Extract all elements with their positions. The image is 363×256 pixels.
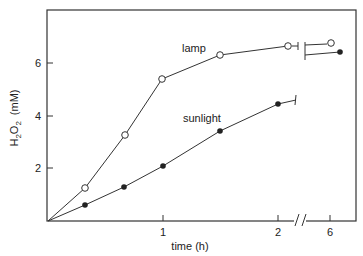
x-tick-2: 2 <box>275 226 281 238</box>
svg-text:H2O2(mM): H2O2(mM) <box>8 89 23 146</box>
y-tick-6: 6 <box>35 57 41 69</box>
series-label-lamp: lamp <box>182 42 206 54</box>
chart: 6 4 2 H2O2(mM) 1 2 6 time (h) <box>0 0 363 256</box>
y-tick-4: 4 <box>35 110 41 122</box>
series-label-sunlight: sunlight <box>183 112 221 124</box>
x-axis-title: time (h) <box>171 240 208 252</box>
x-axis: 1 2 6 time (h) <box>160 214 333 252</box>
x-tick-1: 1 <box>160 226 166 238</box>
series-sunlight: sunlight <box>48 49 343 221</box>
x-tick-6: 6 <box>327 226 333 238</box>
y-axis-title: H2O2(mM) <box>8 89 23 146</box>
y-axis: 6 4 2 H2O2(mM) <box>8 57 53 174</box>
series-lamp: lamp <box>48 40 334 221</box>
y-tick-2: 2 <box>35 162 41 174</box>
